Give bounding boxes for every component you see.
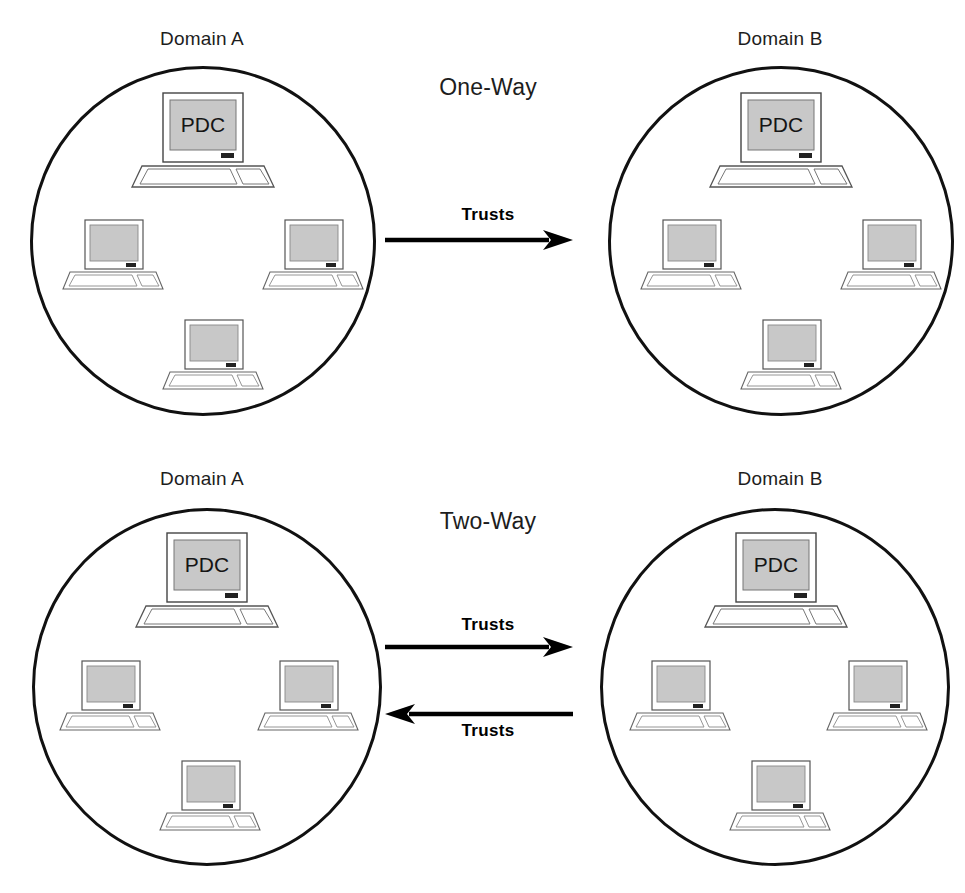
computer-workstation-bottom-left-west	[55, 660, 167, 734]
domain-label-bottom-right: Domain B	[700, 468, 860, 490]
computer-workstation-bottom-left-east	[253, 660, 365, 734]
pdc-label-bottom-left: PDC	[185, 553, 229, 576]
computer-pdc-top-left: PDC	[124, 92, 284, 192]
trust-label-one-way: Trusts	[418, 205, 558, 225]
trust-label-two-way-left: Trusts	[418, 721, 558, 741]
computer-pdc-bottom-left: PDC	[128, 532, 288, 632]
section-title-two-way: Two-Way	[408, 508, 568, 535]
computer-workstation-top-right-west	[636, 219, 748, 293]
computer-workstation-top-right-south	[736, 319, 848, 393]
computer-workstation-top-left-east	[258, 219, 370, 293]
trust-arrow-two-way-right	[383, 635, 575, 659]
domain-label-bottom-left: Domain A	[122, 468, 282, 490]
computer-pdc-bottom-right: PDC	[697, 532, 857, 632]
section-title-one-way: One-Way	[408, 74, 568, 101]
trust-arrow-one-way-right	[383, 228, 575, 252]
trust-label-two-way-right: Trusts	[418, 615, 558, 635]
computer-workstation-bottom-right-south	[725, 760, 837, 834]
computer-workstation-top-left-south	[158, 319, 270, 393]
computer-workstation-bottom-left-south	[155, 760, 267, 834]
computer-workstation-top-right-east	[836, 219, 948, 293]
pdc-label-top-right: PDC	[759, 113, 803, 136]
pdc-label-bottom-right: PDC	[754, 553, 798, 576]
computer-pdc-top-right: PDC	[702, 92, 862, 192]
domain-label-top-right: Domain B	[700, 28, 860, 50]
computer-workstation-bottom-right-east	[822, 660, 934, 734]
domain-label-top-left: Domain A	[122, 28, 282, 50]
computer-workstation-top-left-west	[58, 219, 170, 293]
computer-workstation-bottom-right-west	[625, 660, 737, 734]
diagram-canvas: One-Way Domain A PDC	[0, 0, 965, 893]
pdc-label-top-left: PDC	[181, 113, 225, 136]
